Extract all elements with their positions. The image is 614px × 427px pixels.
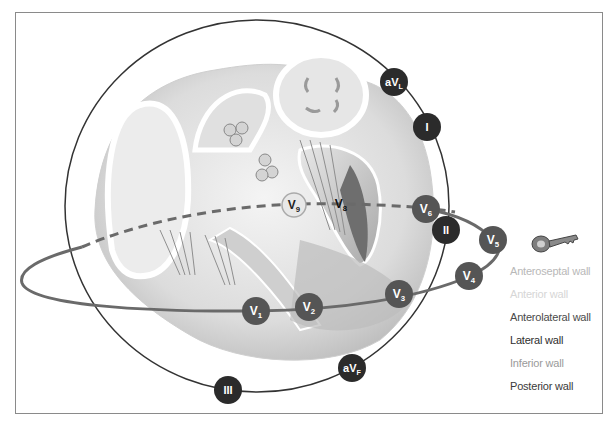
legend-item-anteroseptal: Anteroseptal wall bbox=[510, 260, 610, 283]
lead-v1: V1 bbox=[242, 297, 270, 325]
lead-v6: V6 bbox=[412, 195, 440, 223]
legend-item-inferior: Inferior wall bbox=[510, 352, 610, 375]
svg-text:III: III bbox=[223, 384, 232, 396]
lead-v2: V2 bbox=[295, 293, 323, 321]
lead-iii: III bbox=[214, 376, 242, 404]
legend-item-lateral: Lateral wall bbox=[510, 329, 610, 352]
lead-v5: V5 bbox=[479, 226, 507, 254]
svg-text:I: I bbox=[425, 121, 428, 133]
svg-text:II: II bbox=[443, 224, 449, 236]
lead-v3: V3 bbox=[385, 280, 413, 308]
lead-v9: V9 bbox=[282, 193, 306, 217]
key-icon bbox=[530, 232, 580, 254]
legend-item-anterolateral: Anterolateral wall bbox=[510, 306, 610, 329]
lead-i: I bbox=[413, 113, 441, 141]
legend-item-posterior: Posterior wall bbox=[510, 375, 610, 398]
legend-item-anterior: Anterior wall bbox=[510, 283, 610, 306]
lead-v4: V4 bbox=[455, 262, 483, 290]
lead-ii: II bbox=[432, 216, 460, 244]
wall-legend: Anteroseptal wall Anterior wall Anterola… bbox=[510, 260, 610, 398]
lead-avl: aVL bbox=[380, 68, 408, 96]
lead-avf: aVF bbox=[338, 354, 366, 382]
